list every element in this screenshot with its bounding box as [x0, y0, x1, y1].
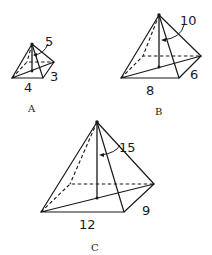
pyramid-b: 10 6 8 B — [121, 13, 201, 117]
pyramid-c-width-label: 12 — [79, 217, 96, 232]
pyramid-a-visible-base — [12, 62, 54, 78]
pyramid-b-hidden-lateral-edge — [143, 15, 159, 56]
pyramid-b-apex — [157, 13, 160, 16]
pyramid-b-visible-base — [121, 56, 201, 78]
pyramid-c-base-center — [96, 197, 99, 200]
pyramid-a-base-center — [31, 70, 34, 73]
pyramid-c-depth-label: 9 — [142, 203, 150, 218]
pyramid-c-arrow-icon — [99, 153, 104, 157]
pyramid-c-edge-front-right — [97, 122, 124, 212]
pyramid-c-hidden-lateral-edge — [70, 122, 97, 184]
pyramid-a-depth-label: 3 — [50, 69, 58, 84]
pyramids-diagram: 5 3 4 A 10 6 8 B 15 9 12 C — [0, 0, 212, 255]
pyramid-a: 5 3 4 A — [12, 34, 58, 114]
pyramid-a-width-label: 4 — [24, 80, 32, 95]
pyramid-b-base-center — [158, 66, 161, 69]
pyramid-b-caption: B — [155, 106, 162, 117]
pyramid-b-slant-label: 10 — [180, 13, 197, 28]
pyramid-c-caption: C — [91, 242, 99, 253]
pyramid-c-edge-front-left — [41, 122, 97, 212]
pyramid-a-apex — [30, 42, 33, 45]
pyramid-a-slant-label: 5 — [45, 34, 53, 49]
pyramid-c: 15 9 12 C — [41, 120, 154, 253]
pyramid-c-slant-label: 15 — [119, 140, 136, 155]
pyramid-b-width-label: 8 — [146, 83, 154, 98]
pyramid-a-edge-front-left — [12, 44, 32, 78]
pyramid-c-apex — [95, 120, 99, 124]
pyramid-b-depth-label: 6 — [190, 67, 198, 82]
pyramid-a-hidden-lateral-edge — [27, 44, 32, 62]
pyramid-b-arrow-icon — [161, 38, 166, 42]
pyramid-a-caption: A — [27, 103, 36, 114]
